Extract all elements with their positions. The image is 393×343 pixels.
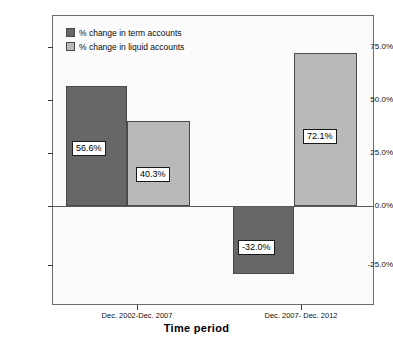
x-tick-mark-2007-2012: [301, 305, 302, 310]
legend-swatch-icon-term: [66, 28, 75, 37]
x-tick-label-2002-2007: Dec. 2002-Dec. 2007: [77, 311, 197, 320]
zero-axis-line: [53, 206, 373, 207]
value-label-term-2002-2007: 56.6%: [72, 141, 106, 156]
legend-item-liquid-accounts[interactable]: % change in liquid accounts: [66, 40, 184, 53]
value-label-term-2007-2012: -32.0%: [238, 240, 275, 255]
x-tick-label-2007-2012: Dec. 2007- Dec. 2012: [241, 311, 361, 320]
value-label-liquid-2002-2007: 40.3%: [136, 167, 170, 182]
legend-label-term: % change in term accounts: [79, 28, 182, 38]
legend-label-liquid: % change in liquid accounts: [79, 42, 184, 52]
plot-area: 56.6% 40.3% -32.0% 72.1% % change in ter…: [53, 16, 373, 304]
legend: % change in term accounts % change in li…: [66, 26, 184, 54]
x-axis-title: Time period: [0, 322, 393, 334]
bar-liquid-2002-2007[interactable]: [127, 121, 190, 206]
bar-chart: 75.0% 50.0% 25.0% 0.0% -25.0% 56.6% 40.3…: [0, 0, 393, 343]
x-tick-mark-2002-2007: [137, 305, 138, 310]
legend-swatch-icon-liquid: [66, 42, 75, 51]
value-label-liquid-2007-2012: 72.1%: [303, 129, 337, 144]
legend-item-term-accounts[interactable]: % change in term accounts: [66, 26, 184, 39]
